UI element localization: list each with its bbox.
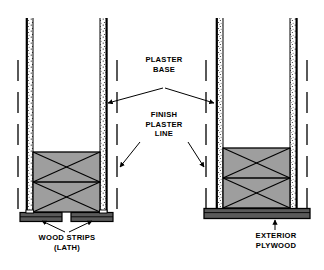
plywood-body <box>204 209 310 219</box>
wood-strips-arrow-left <box>42 221 65 232</box>
left-assembly-stud-block <box>33 152 100 212</box>
left-assembly <box>18 18 117 222</box>
plaster-base-arrow-left <box>108 88 163 103</box>
label-plaster-base: PLASTER BASE <box>133 55 195 74</box>
diagram-canvas: PLASTER BASE FINISH PLASTER LINE WOOD ST… <box>0 0 324 270</box>
left-assembly-plaster-column-outer <box>27 18 34 214</box>
right-assembly <box>204 18 310 219</box>
label-wood-strips: WOOD STRIPS (LATH) <box>12 233 122 252</box>
right-plywood-plate <box>204 209 310 219</box>
finish-plaster-line-arrow-left <box>120 142 140 167</box>
lath-plate-cap <box>100 210 108 213</box>
label-finish-plaster-line: FINISH PLASTER LINE <box>133 110 195 139</box>
lath-plate-cap <box>26 210 34 213</box>
right-assembly-stud-block <box>223 148 290 208</box>
wood-strips-arrow-right <box>69 221 92 232</box>
right-assembly-plaster-column-inner <box>290 18 297 208</box>
label-exterior-plywood: EXTERIOR PLYWOOD <box>240 231 312 250</box>
left-assembly-plaster-column-inner <box>100 18 107 214</box>
finish-plaster-line-arrow-right <box>188 142 204 167</box>
right-assembly-plaster-column-outer <box>217 18 224 208</box>
